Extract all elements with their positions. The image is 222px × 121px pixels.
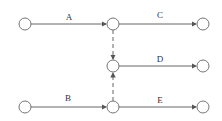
node-8: [197, 101, 209, 113]
node-1: [19, 18, 31, 30]
node-5: [197, 60, 209, 72]
activity-b-label: B: [65, 93, 71, 103]
node-7: [107, 101, 119, 113]
node-4: [107, 60, 119, 72]
network-diagram: A C D B E: [0, 0, 222, 121]
activity-c-label: C: [157, 10, 163, 20]
activity-e-label: E: [157, 95, 163, 105]
node-2: [107, 18, 119, 30]
node-6: [19, 101, 31, 113]
node-3: [197, 18, 209, 30]
activity-a-label: A: [66, 12, 73, 22]
activity-d-label: D: [157, 54, 164, 64]
